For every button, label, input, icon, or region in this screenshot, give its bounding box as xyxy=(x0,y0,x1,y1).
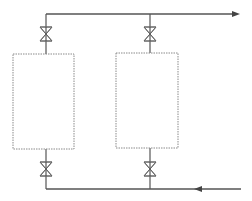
piping-diagram xyxy=(0,0,252,201)
vessel-2 xyxy=(116,53,178,148)
vessel-1 xyxy=(13,54,74,149)
outlet-arrow-icon xyxy=(232,11,240,17)
inlet-arrow-icon xyxy=(194,186,202,192)
